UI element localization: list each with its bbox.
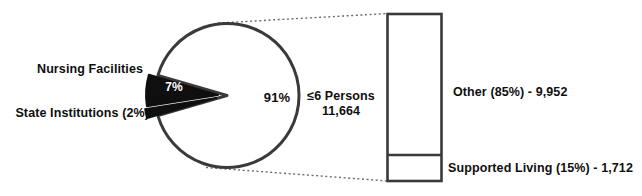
le6-persons-count: 11,664 (302, 104, 380, 119)
connector-line-bottom (206, 168, 388, 182)
state-institutions-label: State Institutions (2%) (13, 106, 149, 120)
le6-persons-label-line1: ≤6 Persons (302, 89, 380, 104)
le6-persons-label: ≤6 Persons 11,664 (302, 89, 380, 119)
pie-bar-breakout-figure: Nursing Facilities State Institutions (2… (0, 0, 642, 196)
bar-segment-supported-living-label: Supported Living (15%) - 1,712 (448, 161, 633, 175)
nursing-facilities-label: Nursing Facilities (15, 62, 143, 76)
connector-line-top (218, 14, 388, 24)
pie-slice-7pct-value: 7% (157, 80, 191, 94)
pie-slice-91pct-value: 91% (258, 91, 296, 105)
bar-segment-other-label: Other (85%) - 9,952 (453, 85, 567, 99)
